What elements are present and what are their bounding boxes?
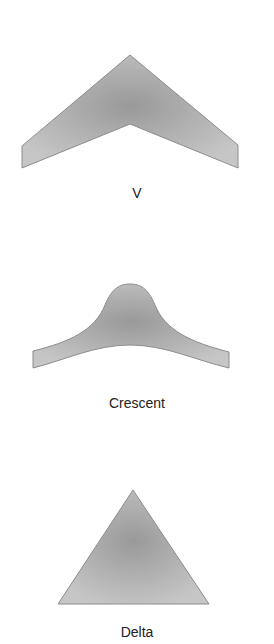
v-label: V (0, 185, 274, 201)
wing-shapes-diagram (0, 0, 274, 644)
delta-label: Delta (0, 624, 274, 640)
v-wing-shape (22, 55, 238, 168)
delta-wing-shape (58, 490, 209, 604)
crescent-wing-shape (33, 284, 229, 368)
crescent-label: Crescent (0, 395, 274, 411)
